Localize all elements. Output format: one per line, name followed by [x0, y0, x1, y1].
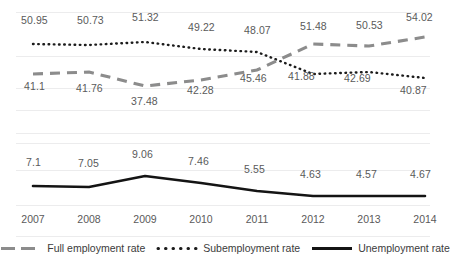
data-label-lower-series-2012: 41.88 — [288, 70, 315, 82]
data-label-subemployment-2010: 49.22 — [188, 21, 215, 33]
data-label-unemployment-2011: 5.55 — [244, 163, 265, 175]
data-label-upper-2014: 54.02 — [406, 11, 433, 23]
data-label-subemployment-2009: 51.32 — [132, 11, 159, 23]
solid-line-swatch-icon — [311, 244, 353, 253]
x-tick-2010: 2010 — [189, 213, 212, 225]
chart-legend: Full employment rate Subemployment rate … — [0, 242, 450, 254]
legend-label-full-employment-rate: Full employment rate — [47, 242, 145, 254]
data-label-lower-series-2014: 40.87 — [400, 84, 427, 96]
data-label-unemployment-2008: 7.05 — [78, 157, 99, 169]
data-label-upper-2013: 50.53 — [356, 19, 383, 31]
dotted-line-swatch-icon — [156, 244, 198, 253]
data-label-subemployment-2007: 50.95 — [21, 14, 48, 26]
x-tick-2011: 2011 — [246, 213, 269, 225]
data-label-unemployment-2014: 4.67 — [410, 168, 431, 180]
data-label-subemployment-2008: 50.73 — [77, 14, 104, 26]
data-label-unemployment-2012: 4.63 — [300, 168, 321, 180]
x-tick-2012: 2012 — [301, 213, 324, 225]
data-label-lower-series-2013: 42.69 — [344, 72, 371, 84]
x-tick-2013: 2013 — [357, 213, 380, 225]
legend-item-unemployment-rate[interactable]: Unemployment rate — [311, 242, 450, 254]
legend-item-full-employment-rate[interactable]: Full employment rate — [0, 242, 145, 254]
data-label-unemployment-2009: 9.06 — [132, 148, 153, 160]
data-label-unemployment-2013: 4.57 — [356, 168, 377, 180]
dashed-line-swatch-icon — [0, 244, 42, 253]
series-layer — [0, 0, 450, 263]
data-label-unemployment-2010: 7.46 — [188, 155, 209, 167]
data-label-full-employment-2011: 45.46 — [240, 72, 267, 84]
legend-label-subemployment-rate: Subemployment rate — [203, 242, 300, 254]
data-label-full-employment-2008: 41.76 — [76, 82, 103, 94]
x-tick-2007: 2007 — [21, 213, 44, 225]
x-tick-2008: 2008 — [77, 213, 100, 225]
data-label-subemployment-2011: 48.07 — [244, 24, 271, 36]
employment-rates-chart: 50.95 50.73 51.32 49.22 48.07 51.48 50.5… — [0, 0, 450, 263]
x-tick-2014: 2014 — [413, 213, 436, 225]
data-label-full-employment-2007: 41.1 — [24, 80, 45, 92]
data-label-unemployment-2007: 7.1 — [26, 156, 41, 168]
x-tick-2009: 2009 — [133, 213, 156, 225]
legend-item-subemployment-rate[interactable]: Subemployment rate — [156, 242, 300, 254]
data-label-full-employment-2010: 42.28 — [187, 84, 214, 96]
data-label-upper-2012: 51.48 — [300, 20, 327, 32]
legend-label-unemployment-rate: Unemployment rate — [358, 242, 450, 254]
data-label-full-employment-2009: 37.48 — [131, 95, 158, 107]
